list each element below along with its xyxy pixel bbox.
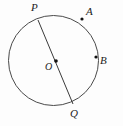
circle-outline [9,16,99,106]
label-point-q: Q [70,108,78,119]
point-a-dot [80,17,83,20]
label-point-b: B [100,55,107,66]
geometry-figure: P A B O Q [0,0,123,126]
label-point-a: A [86,6,93,17]
label-center-o: O [45,62,52,72]
label-point-p: P [31,2,38,13]
center-point-dot [54,59,58,63]
point-b-dot [94,55,97,58]
